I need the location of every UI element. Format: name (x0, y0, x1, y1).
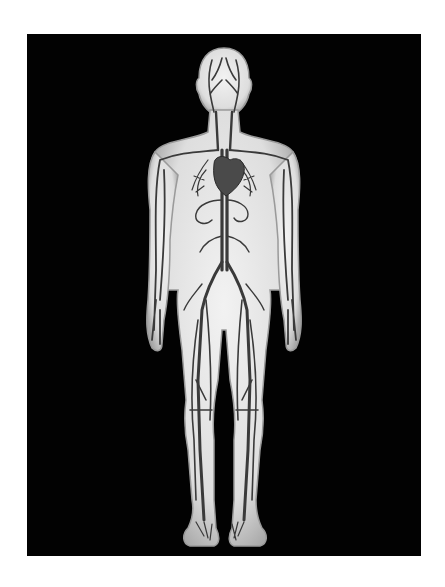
circulatory-system-figure (0, 0, 445, 587)
body-silhouette (147, 48, 301, 546)
head (196, 48, 251, 114)
